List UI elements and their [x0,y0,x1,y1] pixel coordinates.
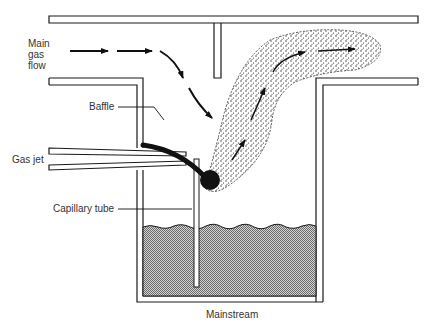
diagram-canvas [0,0,430,334]
liquid [143,224,316,296]
capillary-tube [194,159,199,287]
label-gas: gas [28,49,50,60]
label-main: Main [28,38,50,49]
label-capillary-tube: Capillary tube [53,203,114,214]
right-duct-wall [316,78,418,302]
left-duct-wall [49,78,143,148]
label-baffle: Baffle [89,101,114,112]
spray-plume [205,30,380,192]
label-flow: flow [28,60,50,71]
label-mainstream: Mainstream [206,309,258,320]
droplet [200,170,220,190]
label-main-gas-flow: Main gas flow [28,38,50,71]
label-gas-jet: Gas jet [12,154,44,165]
